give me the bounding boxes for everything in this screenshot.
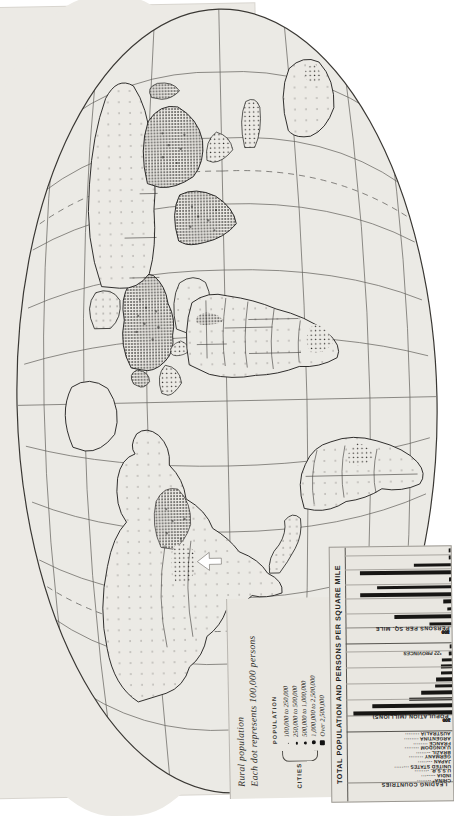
legend-class-row: 1,000,000 to 2,500,000 (309, 675, 317, 747)
map-legend-panel: Rural population Each dot represents 100… (226, 597, 335, 799)
bar (443, 600, 451, 604)
bar-slot (346, 709, 452, 717)
legend-class-label: 100,000 to 250,000 (282, 686, 290, 737)
bar (436, 678, 452, 682)
country-label: BRAZIL ········ (416, 750, 451, 755)
bar (447, 607, 451, 611)
bar (449, 578, 451, 582)
axis-tick-label: 500 (442, 629, 450, 634)
bar (449, 548, 451, 552)
legend-class-label: Over 2,500,000 (318, 695, 326, 736)
bar-slot (346, 670, 452, 678)
population-axis-head: POPULATION (MILLIONS) 100200300400 (346, 714, 452, 731)
legend-class-label: 1,000,000 to 2,500,000 (309, 675, 317, 736)
bar-slot (346, 702, 452, 710)
bar (421, 691, 452, 695)
bar (442, 658, 452, 662)
density-bars (345, 546, 452, 628)
country-label: JAPAN ········ (417, 759, 450, 764)
population-chart-panel: TOTAL POPULATION AND PERSONS PER SQUARE … (329, 545, 454, 802)
legend-class-row: 250,000 to 500,000 (291, 686, 299, 748)
legend-population-header: POPULATION (271, 696, 278, 744)
bar (360, 592, 451, 597)
legend-dot-sm-icon (292, 739, 299, 748)
country-label: FRANCE ········ (413, 740, 451, 745)
country-label: ARGENTINA ········ (404, 736, 451, 741)
bar-slot (346, 689, 452, 697)
legend-square-icon (319, 738, 326, 747)
density-plot (345, 546, 452, 628)
bar (373, 704, 453, 708)
country-label-column: LEADING COUNTRIES CHINA* ········INDIA ·… (347, 730, 454, 801)
bar (360, 570, 451, 575)
axis-tick-label: 400 (442, 717, 450, 722)
legend-cities-header: CITIES (296, 763, 302, 789)
legend-class-label: 500,000 to 1,000,000 (300, 681, 308, 737)
country-label: INDIA ········ (421, 773, 451, 778)
legend-rural-title: Rural population (235, 717, 246, 787)
bar-slot (346, 656, 452, 664)
bar (448, 556, 450, 560)
legend-brace (282, 750, 318, 762)
legend-inner: Rural population Each dot represents 100… (227, 597, 335, 799)
legend-dot-md-icon (301, 738, 308, 747)
bar (414, 563, 451, 567)
legend-dot-xs-icon (283, 739, 290, 748)
country-axis-head: LEADING COUNTRIES (347, 781, 453, 801)
legend-class-label: 250,000 to 500,000 (291, 686, 299, 737)
density-axis-ticks: 100200300400500 (346, 634, 452, 635)
bar-slot (345, 620, 451, 628)
legend-class-row: 500,000 to 1,000,000 (300, 681, 308, 748)
chart-annotation: *22 PROVINCES (403, 650, 441, 656)
country-names: CHINA* ········INDIA ········U.S.S.R. ··… (347, 731, 454, 783)
bar (450, 645, 452, 649)
population-axis-ticks: 100200300400 (347, 722, 453, 723)
bar (441, 671, 452, 675)
bar-slot (345, 613, 451, 621)
legend-dot-lg-icon (310, 738, 317, 747)
bar (377, 585, 451, 589)
density-panel: PERSONS PER SQ. MILE 100200300400500 (345, 546, 452, 643)
density-axis-head: PERSONS PER SQ. MILE 100200300400500 (346, 626, 452, 643)
population-panel: POPULATION (MILLIONS) 100200300400 *22 P… (346, 642, 453, 731)
bar (395, 615, 452, 619)
chart-body: LEADING COUNTRIES CHINA* ········INDIA ·… (345, 546, 454, 801)
bar (435, 684, 452, 688)
country-label: AUSTRALIA ········ (405, 731, 451, 736)
legend-class-row: Over 2,500,000 (318, 695, 326, 747)
legend-class-row: 100,000 to 250,000 (282, 686, 290, 748)
bar (448, 651, 451, 655)
country-label: UNITED STATES ········ (394, 764, 451, 770)
bar (353, 710, 452, 715)
bar (430, 622, 452, 626)
country-label: CHINA* ········ (416, 778, 451, 783)
legend-rural-subtitle: Each dot represents 100,000 persons (247, 635, 260, 786)
chart-rotation-container: TOTAL POPULATION AND PERSONS PER SQUARE … (330, 546, 454, 801)
